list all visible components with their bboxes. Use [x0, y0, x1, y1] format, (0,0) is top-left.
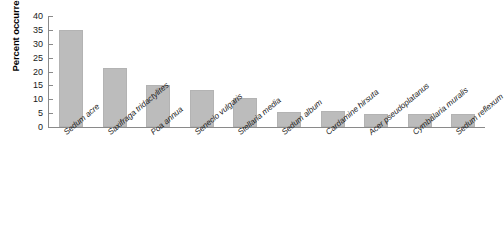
- y-axis-title: Percent occurrence: [8, 0, 24, 88]
- y-tick-label: 5: [23, 113, 43, 114]
- y-tick-label: 35: [23, 30, 43, 31]
- y-tick-label: 15: [23, 85, 43, 86]
- y-tick-label: 30: [23, 44, 43, 45]
- y-tick: 0: [49, 127, 53, 128]
- y-tick-label: 10: [23, 99, 43, 100]
- y-tick-label: 40: [23, 16, 43, 17]
- y-tick-label: 0: [23, 127, 43, 128]
- bar: [59, 30, 83, 127]
- x-axis-category-labels: Sedum acreSaxifraga tridactylitesPoa ann…: [48, 130, 504, 225]
- bar-chart: Percent occurrence 0510152025303540 Sedu…: [0, 0, 504, 225]
- y-tick-label: 20: [23, 72, 43, 73]
- y-tick-label: 25: [23, 58, 43, 59]
